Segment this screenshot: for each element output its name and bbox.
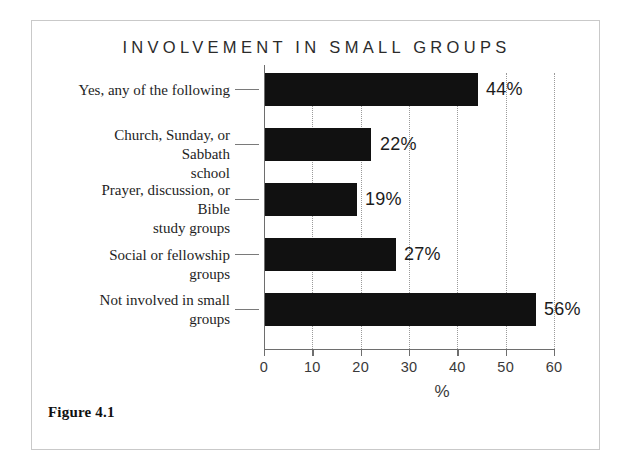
xtick-40	[457, 349, 458, 356]
xtick-50	[506, 349, 507, 356]
bar-value-2: 19%	[365, 189, 402, 210]
category-label-4: Not involved in small groups	[100, 291, 230, 329]
xticklabel-3: 30	[401, 359, 418, 375]
bar-value-0: 44%	[486, 79, 523, 100]
xtick-30	[409, 349, 410, 356]
figure-caption: Figure 4.1	[48, 404, 115, 421]
leader-line-3	[235, 254, 259, 255]
bar-3	[265, 238, 396, 271]
xtick-10	[312, 349, 313, 356]
bar-value-1: 22%	[380, 134, 417, 155]
xticklabel-2: 20	[352, 359, 369, 375]
category-label-1: Church, Sunday, or Sabbath school	[70, 126, 230, 183]
leader-line-1	[235, 144, 259, 145]
category-label-group: Yes, any of the following Church, Sunday…	[70, 73, 230, 349]
bar-0	[265, 73, 478, 106]
bar-2	[265, 183, 357, 216]
category-label-0: Yes, any of the following	[79, 81, 230, 100]
leader-line-4	[235, 309, 259, 310]
xticklabel-1: 10	[304, 359, 321, 375]
x-axis-label: %	[434, 382, 449, 402]
xtick-20	[361, 349, 362, 356]
xticklabel-5: 50	[497, 359, 514, 375]
xticklabel-4: 40	[449, 359, 466, 375]
leader-line-0	[235, 89, 259, 90]
xtick-60	[554, 349, 555, 356]
category-label-2: Prayer, discussion, or Bible study group…	[70, 181, 230, 238]
xtick-top-0	[264, 65, 265, 73]
category-label-3: Social or fellowship groups	[70, 246, 230, 284]
xticklabel-0: 0	[260, 359, 268, 375]
bar-value-4: 56%	[544, 299, 581, 320]
plot-area: 44% 22% 19% 27% 56% 0 10 20 30 40 50 60 …	[264, 73, 554, 349]
bar-4	[265, 293, 536, 326]
xticklabel-6: 60	[546, 359, 563, 375]
bar-value-3: 27%	[404, 244, 441, 265]
xtick-0	[264, 349, 265, 356]
bar-1	[265, 128, 371, 161]
chart-title: INVOLVEMENT IN SMALL GROUPS	[32, 38, 601, 57]
leader-line-2	[235, 199, 259, 200]
figure-frame: INVOLVEMENT IN SMALL GROUPS Yes, any of …	[31, 20, 600, 450]
